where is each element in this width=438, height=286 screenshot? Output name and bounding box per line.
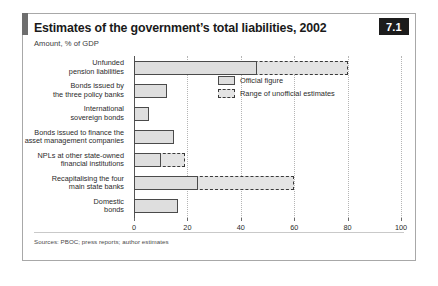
bar-official bbox=[134, 176, 198, 190]
legend-swatch bbox=[218, 89, 235, 98]
legend-label: Official figure bbox=[240, 76, 283, 85]
category-label: NPLs at other state-ownedfinancial insti… bbox=[20, 152, 124, 169]
axis-tick-mark bbox=[187, 218, 188, 221]
axis-tick-label: 60 bbox=[290, 223, 298, 232]
frame-corner-tab bbox=[22, 13, 28, 35]
figure-frame: Estimates of the government’s total liab… bbox=[22, 13, 416, 261]
bar-official bbox=[134, 130, 174, 144]
legend-item: Official figure bbox=[218, 76, 335, 85]
axis-tick-label: 0 bbox=[132, 223, 136, 232]
legend-label: Range of unofficial estimates bbox=[240, 89, 335, 98]
axis-tick-label: 40 bbox=[237, 223, 245, 232]
category-label: Bonds issued bythe three policy banks bbox=[20, 82, 124, 99]
category-label: Internationalsovereign bonds bbox=[20, 105, 124, 122]
axis-tick-label: 20 bbox=[183, 223, 191, 232]
bar-row bbox=[134, 153, 401, 167]
chart-title: Estimates of the government’s total liab… bbox=[34, 22, 334, 35]
chart-subtitle: Amount, % of GDP bbox=[34, 39, 99, 48]
bar-row bbox=[134, 176, 401, 190]
axis-tick-mark bbox=[241, 218, 242, 221]
bar-row bbox=[134, 61, 401, 75]
bar-official bbox=[134, 153, 161, 167]
legend-swatch bbox=[218, 76, 235, 85]
bar-official bbox=[134, 107, 149, 121]
axis-tick-mark bbox=[134, 218, 135, 221]
axis-tick-mark bbox=[348, 218, 349, 221]
category-label: Bonds issued to finance theasset managem… bbox=[20, 129, 124, 146]
bar-official bbox=[134, 199, 178, 213]
figure-number-badge: 7.1 bbox=[379, 18, 409, 35]
legend-item: Range of unofficial estimates bbox=[218, 89, 335, 98]
bar-row bbox=[134, 130, 401, 144]
category-label: Unfundedpension liabilities bbox=[20, 59, 124, 76]
category-axis-labels: Unfundedpension liabilitiesBonds issued … bbox=[23, 56, 130, 218]
axis-tick-label: 100 bbox=[395, 223, 407, 232]
bar-official bbox=[134, 61, 257, 75]
bar-row bbox=[134, 199, 401, 213]
category-label: Domesticbonds bbox=[20, 198, 124, 215]
axis-tick-mark bbox=[294, 218, 295, 221]
axis-tick-mark bbox=[401, 218, 402, 221]
gridline-100 bbox=[401, 56, 403, 218]
bar-row bbox=[134, 107, 401, 121]
source-divider bbox=[34, 232, 404, 233]
axis-tick-label: 80 bbox=[344, 223, 352, 232]
source-note: Sources: PBOC; press reports; author est… bbox=[34, 238, 169, 245]
category-label: Recapitalising the fourmain state banks bbox=[20, 175, 124, 192]
bar-official bbox=[134, 84, 167, 98]
value-axis: 020406080100 bbox=[134, 218, 401, 240]
chart-legend: Official figureRange of unofficial estim… bbox=[218, 76, 335, 102]
